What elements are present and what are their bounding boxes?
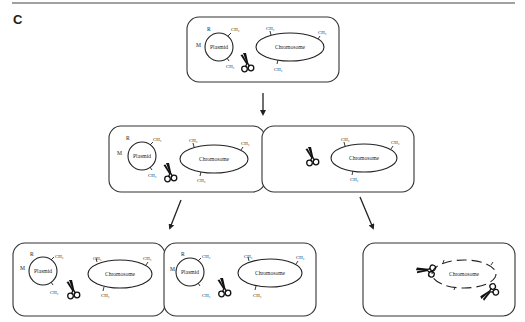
methylase-gene-label: M [170, 266, 175, 272]
methyl-label: CH₃ [101, 293, 110, 298]
plasmid-label: Plasmid [210, 44, 228, 50]
methyl-label: CH₃ [153, 137, 162, 142]
diagram-canvas: C Plasmid R M CH₃ CH₃ Chromosome CH₃ CH₃… [0, 0, 525, 322]
chromosome-label: Chromosome [255, 270, 286, 276]
methylase-gene-label: M [196, 42, 201, 48]
methyl-label: CH₃ [253, 293, 262, 298]
cell-membrane [363, 243, 515, 316]
methyl-label: CH₃ [296, 255, 305, 260]
restriction-gene-label: R [181, 251, 185, 257]
plasmid-label: Plasmid [133, 153, 151, 159]
chromosome-label: Chromosome [199, 156, 230, 162]
arrow-down-right [360, 197, 373, 228]
restriction-gene-label: R [207, 26, 211, 32]
methyl-label: CH₃ [391, 140, 400, 145]
restriction-gene-label: R [126, 135, 130, 141]
restriction-gene-label: R [30, 251, 34, 257]
methyl-label: CH₃ [50, 290, 59, 295]
cell-daughter-with-plasmid: Plasmid R M CH₃ CH₃ Chromosome CH₃ CH₃ C… [109, 126, 265, 192]
methyl-label: CH₃ [226, 64, 235, 69]
cell-daughter-without-plasmid: Chromosome CH₃ CH₃ CH₃ [262, 126, 414, 192]
methyl-label: CH₃ [244, 254, 253, 259]
cell-parent: Plasmid R M CH₃ CH₃ Chromosome CH₃ CH₃ C… [187, 17, 339, 82]
cell-granddaughter-plasmid-free: Chromosome [363, 243, 515, 316]
plasmid-label: Plasmid [34, 268, 52, 274]
cell-membrane [262, 126, 414, 192]
panel-label: C [13, 12, 23, 27]
methyl-label: CH₃ [350, 177, 359, 182]
methyl-label: CH₃ [241, 141, 250, 146]
arrow-down-left [170, 200, 181, 228]
cell-membrane [109, 126, 265, 192]
methyl-label: CH₃ [231, 27, 240, 32]
methyl-label: CH₃ [93, 256, 102, 261]
methyl-label: CH₃ [202, 254, 211, 259]
methyl-label: CH₃ [341, 137, 350, 142]
chromosome-label: Chromosome [275, 44, 306, 50]
chromosome-label: Chromosome [105, 271, 136, 277]
methyl-label: CH₃ [274, 67, 283, 72]
methyl-label: CH₃ [197, 178, 206, 183]
methyl-label: CH₃ [266, 26, 275, 31]
methylase-gene-label: M [117, 150, 122, 156]
methyl-label: CH₃ [189, 138, 198, 143]
cell-granddaughter-a: Plasmid R M CH₃ CH₃ Chromosome CH₃ CH₃ C… [13, 243, 165, 316]
chromosome-label: Chromosome [349, 155, 380, 161]
chromosome-label: Chromosome [449, 271, 480, 277]
plasmid-label: Plasmid [181, 269, 199, 275]
cell-membrane [13, 243, 165, 316]
methyl-label: CH₃ [55, 254, 64, 259]
cell-membrane [164, 243, 316, 316]
methyl-label: CH₃ [143, 256, 152, 261]
methylase-gene-label: M [20, 265, 25, 271]
cell-granddaughter-b: Plasmid R M CH₃ CH₃ Chromosome CH₃ CH₃ C… [164, 243, 316, 316]
methyl-label: CH₃ [318, 30, 327, 35]
methyl-label: CH₃ [202, 293, 211, 298]
methyl-label: CH₃ [148, 173, 157, 178]
